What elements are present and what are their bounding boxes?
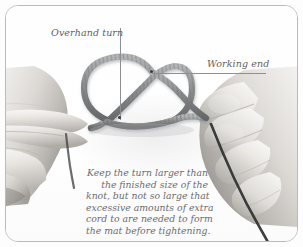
working-end-leader-line — [152, 73, 266, 74]
figure-frame: Overhand turn Working end Keep the turn … — [5, 5, 298, 242]
photo-stage: Overhand turn Working end Keep the turn … — [6, 6, 297, 241]
overhand-turn-leader-line — [120, 28, 121, 120]
working-end-leader-dot — [150, 70, 153, 73]
caption-line-4: excessive amounts of extra — [86, 202, 208, 214]
figure-root: Overhand turn Working end Keep the turn … — [0, 0, 303, 247]
caption-line-6: the mat before tightening. — [86, 225, 208, 237]
figure-caption: Keep the turn larger than the finished s… — [86, 167, 208, 237]
caption-line-1: Keep the turn larger than — [86, 167, 208, 179]
caption-line-2: the finished size of the — [86, 179, 208, 191]
caption-line-5: cord to are needed to form — [86, 213, 208, 225]
caption-line-3: knot, but not so large that — [86, 190, 208, 202]
overhand-turn-leader-dot — [118, 116, 121, 119]
overhand-turn-label: Overhand turn — [51, 27, 123, 38]
working-end-label: Working end — [207, 58, 269, 69]
